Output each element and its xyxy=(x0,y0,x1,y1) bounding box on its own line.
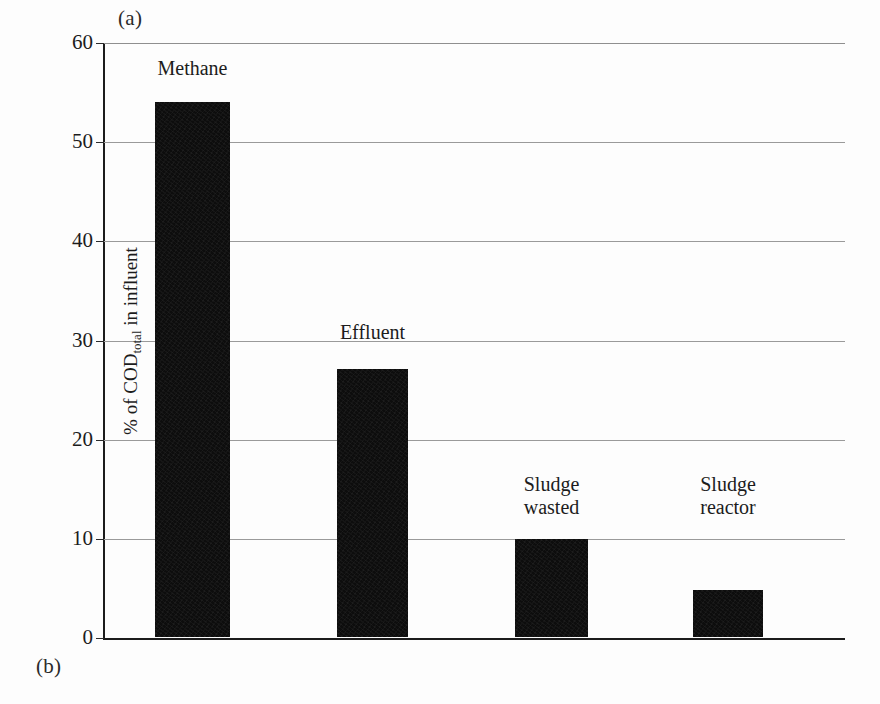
bar-label-sludge-wasted: Sludge wasted xyxy=(482,473,622,519)
bar-methane[interactable] xyxy=(155,102,230,638)
y-tick-label-30: 30 xyxy=(72,330,93,351)
bar-effluent[interactable] xyxy=(337,369,408,637)
figure-panel-b-bar-chart: (a) 0102030405060 % of CODtotal in influ… xyxy=(0,0,880,704)
y-tick-mark-30 xyxy=(96,341,104,342)
y-tick-label-50: 50 xyxy=(72,131,93,152)
y-tick-mark-20 xyxy=(96,440,104,441)
y-tick-label-0: 0 xyxy=(83,627,94,648)
bar-label-methane: Methane xyxy=(118,57,268,80)
y-tick-label-40: 40 xyxy=(72,230,93,251)
y-axis-title-tail: in influent xyxy=(120,247,141,330)
y-axis-title-subscript: total xyxy=(129,330,144,353)
y-tick-label-20: 20 xyxy=(72,429,93,450)
y-tick-mark-50 xyxy=(96,142,104,143)
y-tick-label-10: 10 xyxy=(72,528,93,549)
bar-label-effluent: Effluent xyxy=(298,321,448,344)
y-tick-label-60: 60 xyxy=(72,32,93,53)
bar-label-sludge-reactor: Sludge reactor xyxy=(658,473,798,519)
panel-label-a: (a) xyxy=(118,8,142,29)
panel-label-b: (b) xyxy=(36,656,61,677)
bar-sludge-reactor[interactable] xyxy=(693,590,763,637)
y-axis-title-main: % of COD xyxy=(120,353,141,434)
y-tick-mark-60 xyxy=(96,43,104,44)
bar-sludge-wasted[interactable] xyxy=(515,539,588,637)
y-tick-mark-10 xyxy=(96,539,104,540)
y-tick-mark-40 xyxy=(96,241,104,242)
gridline-60 xyxy=(103,43,845,44)
y-tick-mark-0 xyxy=(96,638,104,639)
plot-area: 0102030405060 % of CODtotal in influent … xyxy=(103,43,845,638)
y-axis-title: % of CODtotal in influent xyxy=(120,247,142,435)
x-axis-line xyxy=(103,638,845,640)
